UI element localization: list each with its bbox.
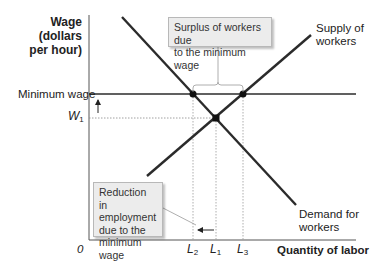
surplus-callout-line1: Surplus of workers due — [174, 21, 266, 46]
x-axis-label: Quantity of labor — [277, 244, 369, 257]
l2-subscript: 2 — [194, 248, 198, 257]
l2-letter: L — [187, 242, 194, 256]
demand-label-line1: Demand for — [299, 208, 359, 221]
w1-letter: W — [68, 109, 79, 123]
surplus-bracket — [193, 82, 243, 92]
supply-label-line2: workers — [316, 35, 364, 48]
tick-l1: L1 — [210, 243, 221, 259]
supply-label: Supply of workers — [316, 22, 364, 48]
l1-subscript: 1 — [217, 248, 221, 257]
y-axis-label-line2: (dollars — [29, 29, 82, 43]
l3-subscript: 3 — [244, 248, 248, 257]
tick-l2: L2 — [187, 243, 198, 259]
supply-label-line1: Supply of — [316, 22, 364, 35]
point-equilibrium — [213, 115, 220, 122]
l1-letter: L — [210, 242, 217, 256]
demand-label-line2: workers — [299, 221, 359, 234]
minimum-wage-label: Minimum wage — [18, 88, 95, 101]
reduction-leader — [163, 208, 196, 225]
w1-subscript: 1 — [79, 115, 83, 124]
reduction-callout-line2: employment — [99, 211, 157, 224]
reduction-callout-line3: due to the — [99, 224, 157, 237]
l3-letter: L — [237, 242, 244, 256]
demand-label: Demand for workers — [299, 208, 359, 234]
origin-label: 0 — [77, 243, 83, 256]
y-axis-label-line1: Wage — [29, 15, 82, 29]
reduction-callout-line4: minimum wage — [99, 236, 157, 261]
reduction-callout: Reduction in employment due to the minim… — [93, 182, 163, 237]
surplus-callout-line2: to the minimum wage — [174, 46, 266, 71]
surplus-callout: Surplus of workers due to the minimum wa… — [168, 17, 272, 47]
w1-label: W1 — [68, 110, 84, 126]
y-axis-label-line3: per hour) — [29, 43, 82, 57]
y-axis-label: Wage (dollars per hour) — [29, 15, 82, 57]
tick-l3: L3 — [237, 243, 248, 259]
reduction-callout-line1: Reduction in — [99, 186, 157, 211]
